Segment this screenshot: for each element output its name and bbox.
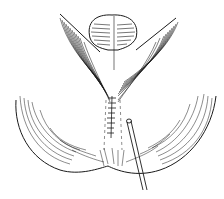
right-wing (118, 18, 178, 102)
suture-line (104, 96, 122, 150)
upper-mound (89, 15, 137, 70)
illustration (0, 0, 224, 199)
left-wing (60, 14, 110, 102)
lower-lobe (16, 94, 216, 173)
